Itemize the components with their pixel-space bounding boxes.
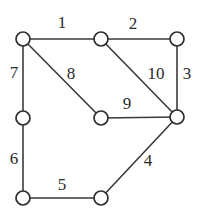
edge-10[interactable] (101, 39, 177, 117)
edge-label-1: 1 (58, 14, 67, 31)
edge-label-8: 8 (67, 65, 76, 82)
edge-label-10: 10 (148, 65, 165, 82)
node-top-right[interactable] (170, 32, 184, 46)
node-top-middle[interactable] (94, 32, 108, 46)
edge-label-5: 5 (58, 176, 67, 193)
edge-label-2: 2 (129, 15, 138, 32)
node-right-middle[interactable] (170, 110, 184, 124)
edge-label-7: 7 (10, 64, 19, 81)
graph-svg (0, 0, 201, 217)
edge-4[interactable] (101, 117, 177, 198)
edge-label-3: 3 (183, 65, 192, 82)
edge-label-6: 6 (10, 150, 19, 167)
node-top-left[interactable] (16, 32, 30, 46)
node-center[interactable] (94, 111, 108, 125)
edge-label-9: 9 (123, 95, 132, 112)
edge-label-4: 4 (144, 152, 153, 169)
node-bottom-middle[interactable] (94, 191, 108, 205)
node-bottom-left[interactable] (16, 191, 30, 205)
graph-diagram-canvas: 12345678910 (0, 0, 201, 217)
node-left-middle[interactable] (16, 111, 30, 125)
edge-9[interactable] (101, 117, 177, 118)
edge-8[interactable] (23, 39, 101, 118)
